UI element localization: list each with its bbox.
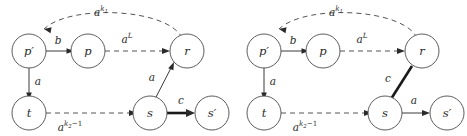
edge-label-pprime-to-t: a xyxy=(35,75,41,87)
arrowhead-p-to-r xyxy=(162,48,170,54)
arrowhead-s-to-r xyxy=(168,62,174,70)
edge-label-r-to-pprime: ak1 xyxy=(94,4,108,18)
arrowhead-p-to-r xyxy=(397,48,405,54)
edge-label-pprime-to-p: b xyxy=(290,34,297,46)
node-label-s: s xyxy=(382,106,388,120)
edge-label-pprime-to-p: b xyxy=(55,34,62,46)
automaton-figure: p′ p r t s s′ ak1 b aL a ak2−1 a c xyxy=(0,0,467,136)
edge-s-to-r-solid xyxy=(154,66,172,101)
node-label-t: t xyxy=(27,106,32,120)
edge-label-pprime-to-t: a xyxy=(270,75,276,87)
arrowhead-s-to-sprime xyxy=(422,110,430,116)
node-label-p: p xyxy=(319,44,327,58)
node-label-s-prime: s′ xyxy=(208,106,217,120)
figure-canvas: p′ p r t s s′ ak1 b aL a ak2−1 a c xyxy=(0,0,467,136)
edge-s-to-r-thick xyxy=(391,66,412,99)
right-graph: p′ p r t s s′ ak1 b aL a ak2−1 c a xyxy=(247,4,464,133)
left-graph: p′ p r t s s′ ak1 b aL a ak2−1 a c xyxy=(12,4,229,133)
node-label-t: t xyxy=(262,106,267,120)
node-label-p-prime: p′ xyxy=(24,44,34,58)
node-label-s: s xyxy=(147,106,153,120)
edge-label-s-to-r: c xyxy=(385,72,391,84)
edge-label-p-to-r: aL xyxy=(121,31,132,45)
edge-label-t-to-s: ak2−1 xyxy=(293,119,318,133)
edge-label-s-to-sprime: c xyxy=(178,94,184,106)
node-label-s-prime: s′ xyxy=(443,106,452,120)
arrowhead-s-to-sprime xyxy=(186,109,195,117)
edge-r-to-pprime-dashed xyxy=(44,13,182,38)
edge-label-p-to-r: aL xyxy=(356,31,367,45)
edge-label-t-to-s: ak2−1 xyxy=(58,119,83,133)
node-label-p-prime: p′ xyxy=(259,44,269,58)
edge-label-s-to-sprime: a xyxy=(411,94,417,106)
edge-label-s-to-r: a xyxy=(149,71,155,83)
edge-label-r-to-pprime: ak1 xyxy=(329,4,343,18)
node-label-p: p xyxy=(84,44,92,58)
edge-r-to-pprime-dashed xyxy=(279,13,417,38)
